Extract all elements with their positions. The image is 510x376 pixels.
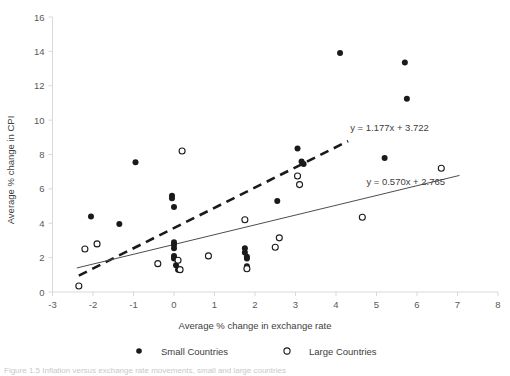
y-tick-label: 16: [34, 12, 45, 23]
series-small-countries: [88, 50, 410, 273]
legend-marker-small-countries: [136, 348, 142, 354]
x-tick-label: 8: [495, 299, 500, 310]
y-tick-label: 10: [34, 115, 45, 126]
data-point-small-country: [244, 255, 250, 261]
data-point-large-country: [272, 244, 278, 250]
x-axis-title: Average % change in exchange rate: [179, 320, 332, 331]
x-tick-label: 6: [414, 299, 419, 310]
data-point-large-country: [155, 261, 161, 267]
data-points-group: [76, 50, 444, 289]
data-point-small-country: [274, 198, 280, 204]
y-tick-label: 14: [34, 46, 45, 57]
data-point-small-country: [337, 50, 343, 56]
data-point-large-country: [205, 253, 211, 259]
data-point-small-country: [169, 195, 175, 201]
legend-label-small-countries: Small Countries: [161, 346, 228, 357]
legend-marker-large-countries: [284, 348, 290, 354]
large-countries-trendline: [77, 175, 460, 268]
equation-labels-group: y = 1.177x + 3.722y = 0.570x + 2.765: [350, 122, 445, 186]
x-tick-label: 0: [171, 299, 176, 310]
x-tick-label: 5: [374, 299, 379, 310]
large-countries-trendline-equation-label: y = 0.570x + 2.765: [366, 176, 445, 187]
data-point-small-country: [295, 145, 301, 151]
x-tick-label: -2: [89, 299, 97, 310]
legend: Small CountriesLarge Countries: [136, 346, 377, 357]
y-tick-label: 4: [39, 218, 44, 229]
data-point-large-country: [295, 173, 301, 179]
figure-caption: Figure 1.5 Inflation versus exchange rat…: [4, 366, 286, 375]
data-point-large-country: [242, 217, 248, 223]
x-tick-label: 3: [293, 299, 298, 310]
data-point-small-country: [402, 60, 408, 66]
x-tick-label: -3: [48, 299, 56, 310]
chart-canvas: 0246810121416 -3-2-1012345678 y = 1.177x…: [0, 0, 510, 376]
y-axis-title: Average % change in CPI: [5, 116, 16, 225]
y-tick-label: 8: [39, 149, 44, 160]
y-tick-label: 12: [34, 80, 45, 91]
data-point-large-country: [175, 257, 181, 263]
data-point-large-country: [76, 283, 82, 289]
x-axis: -3-2-1012345678: [48, 292, 500, 310]
data-point-small-country: [88, 213, 94, 219]
y-axis: 0246810121416: [34, 12, 53, 298]
small-countries-trendline: [79, 141, 348, 276]
y-tick-label: 6: [39, 183, 44, 194]
data-point-small-country: [116, 221, 122, 227]
small-countries-trendline-equation-label: y = 1.177x + 3.722: [350, 122, 429, 133]
data-point-large-country: [177, 267, 183, 273]
data-point-large-country: [244, 266, 250, 272]
data-point-large-country: [359, 214, 365, 220]
legend-label-large-countries: Large Countries: [309, 346, 377, 357]
data-point-large-country: [438, 165, 444, 171]
data-point-small-country: [133, 159, 139, 165]
y-tick-label: 0: [39, 287, 44, 298]
data-point-small-country: [382, 155, 388, 161]
scatter-plot-figure: 0246810121416 -3-2-1012345678 y = 1.177x…: [0, 0, 510, 376]
data-point-large-country: [297, 182, 303, 188]
y-tick-label: 2: [39, 252, 44, 263]
data-point-small-country: [171, 204, 177, 210]
x-tick-label: 7: [455, 299, 460, 310]
x-tick-label: 2: [252, 299, 257, 310]
x-tick-label: 4: [333, 299, 338, 310]
data-point-large-country: [179, 148, 185, 154]
data-point-large-country: [94, 241, 100, 247]
x-tick-label: -1: [129, 299, 137, 310]
data-point-large-country: [82, 246, 88, 252]
data-point-small-country: [171, 245, 177, 251]
data-point-small-country: [301, 161, 307, 167]
series-large-countries: [76, 148, 444, 289]
x-tick-label: 1: [212, 299, 217, 310]
data-point-small-country: [404, 96, 410, 102]
data-point-large-country: [276, 235, 282, 241]
